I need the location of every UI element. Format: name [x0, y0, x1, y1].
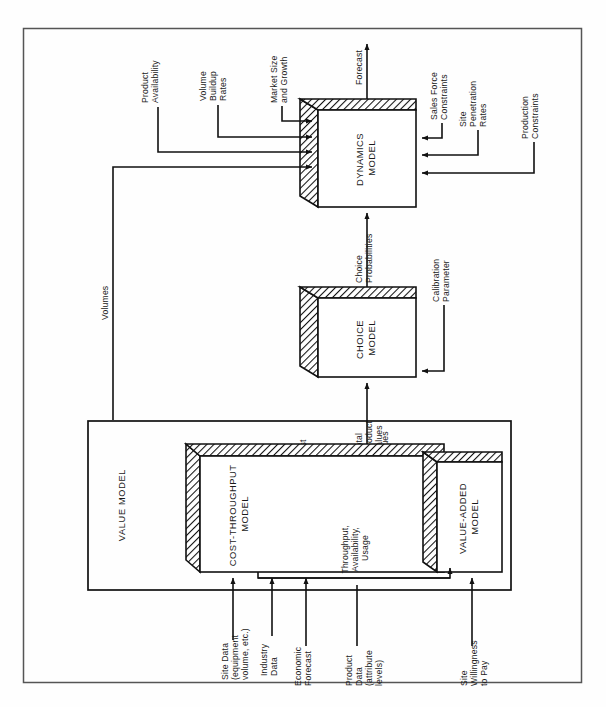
choice-model-box: CHOICE MODEL — [300, 287, 416, 377]
flow-volumes-label: Volumes — [100, 286, 110, 320]
value-model-group-label: VALUE MODEL — [117, 469, 127, 541]
flow-forecast: Forecast — [354, 44, 367, 99]
cost-throughput-model-box: COST-THROUGHPUT MODEL — [186, 444, 444, 572]
input-product-data-label: Product Data (attribute levels) — [344, 647, 384, 686]
dynamics-right-inputs: Sales Force Constraints Site Penetration… — [422, 69, 540, 173]
cost-throughput-box-depth-face — [186, 444, 200, 572]
flow-choice-probabilities-label: Choice Probabilities — [354, 234, 374, 283]
value-model-bottom-inputs: Site Data (equipment volume, etc.) Indus… — [220, 578, 489, 686]
input-calibration-parameter-label: Calibration Parameter — [431, 256, 451, 302]
choice-box-top-face — [300, 287, 416, 298]
choice-box-depth-face — [300, 287, 318, 377]
input-industry-data-label: Industry Data — [259, 641, 279, 676]
dynamics-box-top-face — [300, 99, 416, 110]
flow-forecast-label: Forecast — [354, 50, 364, 85]
diagram-canvas: DYNAMICS MODEL Forecast Market Size and … — [0, 0, 606, 707]
flow-choice-probabilities: Choice Probabilities — [354, 213, 374, 287]
input-site-penetration-label: Site Penetration Rates — [458, 78, 488, 127]
dynamics-model-box: DYNAMICS MODEL — [300, 99, 416, 207]
input-sales-force-label: Sales Force Constraints — [429, 69, 449, 120]
choice-calibration-input: Calibration Parameter — [422, 256, 451, 371]
value-added-box-depth-face — [423, 452, 437, 572]
choice-model-label: CHOICE MODEL — [354, 317, 377, 359]
dynamics-box-depth-face — [300, 99, 318, 207]
value-added-box-top-face — [423, 452, 502, 462]
input-site-willingness-label: Site Willingness to Pay — [459, 638, 489, 686]
input-market-size-label: Market Size and Growth — [269, 53, 289, 103]
input-economic-forecast-label: Economic Forecast — [293, 644, 313, 686]
dynamics-left-inputs: Market Size and Growth Volume Buildup Ra… — [100, 53, 312, 420]
cost-throughput-box-top-face — [186, 444, 444, 456]
input-product-availability-label: Product Availability — [140, 60, 160, 103]
input-volume-buildup-label: Volume Buildup Rates — [198, 68, 228, 101]
flow-diagram: DYNAMICS MODEL Forecast Market Size and … — [0, 0, 606, 707]
value-added-model-box: VALUE-ADDED MODEL — [423, 452, 502, 572]
input-site-data-label: Site Data (equipment volume, etc.) — [220, 628, 250, 680]
input-production-constraints-label: Production Constraints — [520, 93, 540, 139]
